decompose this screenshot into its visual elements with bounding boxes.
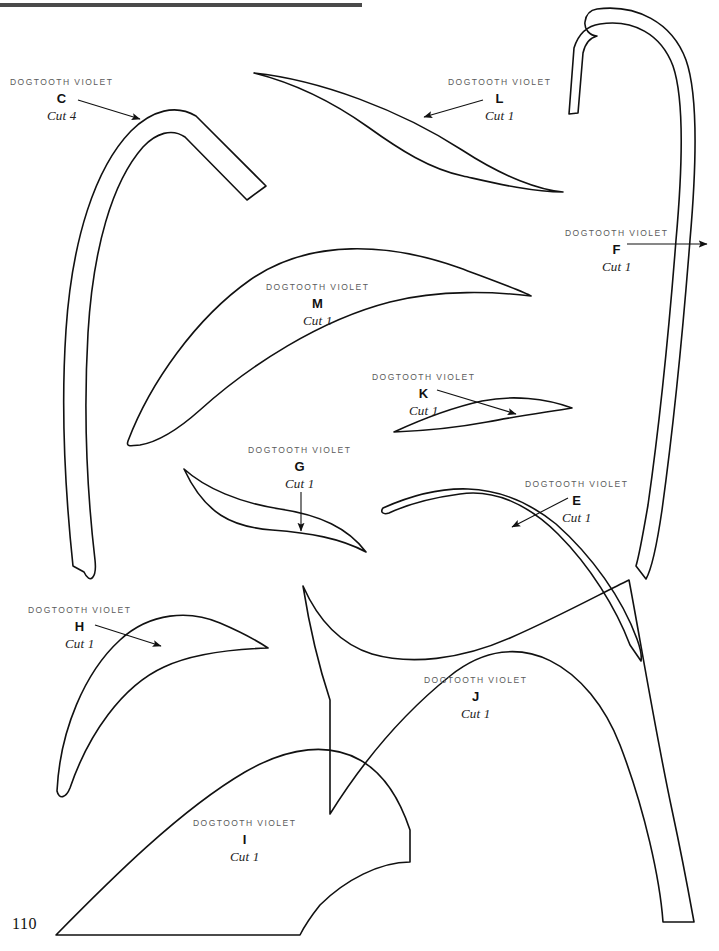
label-f-cut: Cut 1 <box>565 260 668 273</box>
label-i: DOGTOOTH VIOLET I Cut 1 <box>193 819 296 863</box>
label-c-letter: C <box>10 92 113 105</box>
label-j: DOGTOOTH VIOLET J Cut 1 <box>424 676 527 720</box>
label-f: DOGTOOTH VIOLET F Cut 1 <box>565 229 668 273</box>
label-m: DOGTOOTH VIOLET M Cut 1 <box>266 283 369 327</box>
label-k: DOGTOOTH VIOLET K Cut 1 <box>372 373 475 417</box>
label-c-title: DOGTOOTH VIOLET <box>10 78 113 87</box>
piece-outline-c <box>64 110 266 579</box>
label-g-cut: Cut 1 <box>248 477 351 490</box>
label-g: DOGTOOTH VIOLET G Cut 1 <box>248 446 351 490</box>
label-i-cut: Cut 1 <box>193 850 296 863</box>
label-k-letter: K <box>372 387 475 400</box>
label-g-letter: G <box>248 460 351 473</box>
piece-outline-j <box>303 580 694 922</box>
label-c: DOGTOOTH VIOLET C Cut 4 <box>10 78 113 122</box>
label-j-title: DOGTOOTH VIOLET <box>424 676 527 685</box>
label-m-letter: M <box>266 297 369 310</box>
label-k-cut: Cut 1 <box>372 404 475 417</box>
label-f-title: DOGTOOTH VIOLET <box>565 229 668 238</box>
label-f-letter: F <box>565 243 668 256</box>
label-h: DOGTOOTH VIOLET H Cut 1 <box>28 606 131 650</box>
label-l-letter: L <box>448 92 551 105</box>
label-e-letter: E <box>525 494 628 507</box>
label-e: DOGTOOTH VIOLET E Cut 1 <box>525 480 628 524</box>
label-g-title: DOGTOOTH VIOLET <box>248 446 351 455</box>
label-e-cut: Cut 1 <box>525 511 628 524</box>
label-c-cut: Cut 4 <box>10 109 113 122</box>
pattern-outlines <box>0 0 719 951</box>
label-h-title: DOGTOOTH VIOLET <box>28 606 131 615</box>
label-e-title: DOGTOOTH VIOLET <box>525 480 628 489</box>
label-l-title: DOGTOOTH VIOLET <box>448 78 551 87</box>
label-l-cut: Cut 1 <box>448 109 551 122</box>
label-i-title: DOGTOOTH VIOLET <box>193 819 296 828</box>
label-i-letter: I <box>193 833 296 846</box>
label-h-letter: H <box>28 620 131 633</box>
label-m-title: DOGTOOTH VIOLET <box>266 283 369 292</box>
label-h-cut: Cut 1 <box>28 637 131 650</box>
pattern-page: DOGTOOTH VIOLET C Cut 4 DOGTOOTH VIOLET … <box>0 0 719 951</box>
label-j-letter: J <box>424 690 527 703</box>
label-m-cut: Cut 1 <box>266 314 369 327</box>
label-k-title: DOGTOOTH VIOLET <box>372 373 475 382</box>
label-j-cut: Cut 1 <box>424 707 527 720</box>
page-number: 110 <box>12 915 37 933</box>
label-l: DOGTOOTH VIOLET L Cut 1 <box>448 78 551 122</box>
